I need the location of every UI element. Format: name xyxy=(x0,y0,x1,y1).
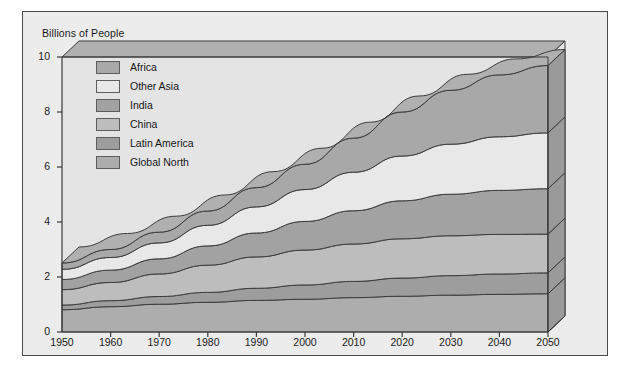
x-axis-tick-label: 2050 xyxy=(528,336,568,348)
x-axis-tick-label: 1990 xyxy=(236,336,276,348)
legend-swatch-latin-america xyxy=(96,137,120,150)
legend-swatch-china xyxy=(96,118,120,131)
chart-page: Billions of People AfricaOther AsiaIndia… xyxy=(0,0,632,371)
y-axis-tick-label: 10 xyxy=(28,50,50,62)
legend-item: India xyxy=(96,98,194,112)
legend-label: Other Asia xyxy=(130,80,179,92)
legend-item: China xyxy=(96,117,194,131)
legend-item: Global North xyxy=(96,155,194,169)
y-axis-title: Billions of People xyxy=(42,27,124,39)
legend-label: Latin America xyxy=(130,137,194,149)
x-axis-tick-label: 1950 xyxy=(42,336,82,348)
legend-swatch-india xyxy=(96,99,120,112)
y-axis-tick-label: 8 xyxy=(28,105,50,117)
x-axis-tick-label: 2030 xyxy=(431,336,471,348)
legend-label: Africa xyxy=(130,61,157,73)
x-axis-tick-label: 2040 xyxy=(479,336,519,348)
y-axis-tick-label: 6 xyxy=(28,160,50,172)
legend-swatch-other-asia xyxy=(96,80,120,93)
x-axis-tick-label: 2010 xyxy=(334,336,374,348)
legend-label: India xyxy=(130,99,153,111)
x-axis-tick-label: 1960 xyxy=(91,336,131,348)
x-axis-tick-label: 1980 xyxy=(188,336,228,348)
legend-swatch-africa xyxy=(96,61,120,74)
legend-item: Latin America xyxy=(96,136,194,150)
legend-item: Other Asia xyxy=(96,79,194,93)
y-axis-tick-label: 2 xyxy=(28,270,50,282)
legend-label: China xyxy=(130,118,157,130)
legend-label: Global North xyxy=(130,156,189,168)
x-axis-tick-label: 1970 xyxy=(139,336,179,348)
x-axis-tick-label: 2000 xyxy=(285,336,325,348)
y-axis-tick-label: 4 xyxy=(28,215,50,227)
legend-item: Africa xyxy=(96,60,194,74)
chart-legend: AfricaOther AsiaIndiaChinaLatin AmericaG… xyxy=(96,60,194,169)
x-axis-tick-label: 2020 xyxy=(382,336,422,348)
legend-swatch-global-north xyxy=(96,156,120,169)
